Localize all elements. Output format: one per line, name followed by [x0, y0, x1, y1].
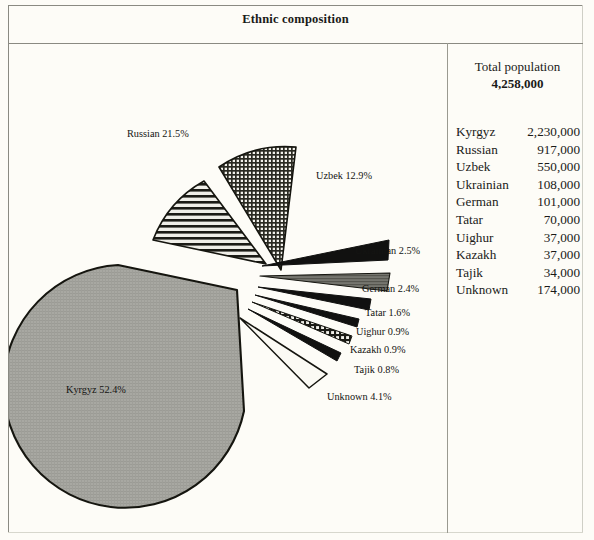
pie-slice-tatar [258, 287, 371, 310]
row-count: 550,000 [518, 158, 580, 176]
population-table-body: Kyrgyz 2,230,000 Russian 917,000 Uzbek 5… [456, 123, 580, 299]
row-count: 70,000 [518, 211, 580, 229]
table-row: Kyrgyz 2,230,000 [456, 123, 580, 141]
table-row: Kazakh 37,000 [456, 246, 580, 264]
total-population-value: 4,258,000 [455, 75, 580, 92]
row-count: 37,000 [518, 229, 580, 247]
row-count: 34,000 [518, 264, 580, 282]
row-group-name: Kazakh [456, 246, 518, 264]
total-population-label: Total population [455, 58, 580, 75]
table-row: Uzbek 550,000 [456, 158, 580, 176]
row-group-name: Ukrainian [456, 176, 518, 194]
pie-label-uzbek: Uzbek 12.9% [316, 170, 372, 181]
row-count: 101,000 [518, 193, 580, 211]
row-group-name: Tatar [456, 211, 518, 229]
row-count: 917,000 [518, 141, 580, 159]
vertical-divider [447, 43, 448, 533]
table-row: Unknown 174,000 [456, 281, 580, 299]
table-row: Russian 917,000 [456, 141, 580, 159]
frame-border-right [582, 5, 583, 533]
pie-label-kyrgyz: Kyrgyz 52.4% [66, 384, 126, 395]
row-count: 108,000 [518, 176, 580, 194]
row-count: 174,000 [518, 281, 580, 299]
row-count: 37,000 [518, 246, 580, 264]
row-group-name: Uighur [456, 229, 518, 247]
pie-label-uighur: Uighur 0.9% [356, 326, 409, 337]
row-group-name: Russian [456, 141, 518, 159]
table-row: Tajik 34,000 [456, 264, 580, 282]
population-table: Kyrgyz 2,230,000 Russian 917,000 Uzbek 5… [456, 123, 580, 299]
scanned-page: Ethnic composition [0, 0, 594, 540]
pie-label-kazakh: Kazakh 0.9% [350, 344, 405, 355]
total-population-block: Total population 4,258,000 [455, 58, 580, 92]
pie-slice-kyrgyz [9, 265, 244, 508]
pie-chart-panel: Russian 21.5% Uzbek 12.9% Ukrainian 2.5%… [9, 44, 447, 533]
row-group-name: Unknown [456, 281, 518, 299]
pie-label-unknown: Unknown 4.1% [327, 391, 392, 402]
pie-label-tatar: Tatar 1.6% [365, 307, 410, 318]
pie-label-tajik: Tajik 0.8% [354, 364, 399, 375]
table-row: Uighur 37,000 [456, 229, 580, 247]
pie-label-german: German 2.4% [362, 283, 419, 294]
pie-label-russian: Russian 21.5% [127, 128, 189, 139]
pie-label-ukrainian: Ukrainian 2.5% [355, 245, 420, 256]
row-count: 2,230,000 [518, 123, 580, 141]
frame-border-top [8, 5, 583, 6]
table-row: Ukrainian 108,000 [456, 176, 580, 194]
table-row: Tatar 70,000 [456, 211, 580, 229]
row-group-name: Uzbek [456, 158, 518, 176]
table-row: German 101,000 [456, 193, 580, 211]
page-title: Ethnic composition [9, 12, 582, 27]
row-group-name: Tajik [456, 264, 518, 282]
row-group-name: German [456, 193, 518, 211]
row-group-name: Kyrgyz [456, 123, 518, 141]
